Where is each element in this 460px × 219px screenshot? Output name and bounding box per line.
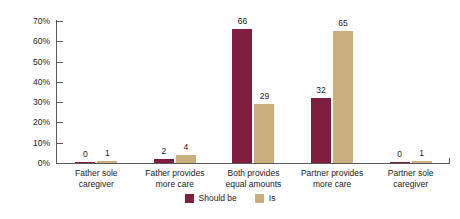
legend-item[interactable]: Should be bbox=[185, 194, 237, 203]
bar-value-label: 29 bbox=[260, 92, 269, 101]
bar-slot: 1 bbox=[412, 21, 432, 163]
chart-category: 3265Partner providesmore care bbox=[293, 21, 372, 163]
bar-value-label: 1 bbox=[419, 149, 424, 158]
bar-value-label: 65 bbox=[338, 19, 347, 28]
category-axis-label: Father solecaregiver bbox=[55, 168, 137, 189]
category-axis-label-line: caregiver bbox=[55, 179, 137, 190]
bar-should-be[interactable] bbox=[75, 162, 95, 164]
category-axis-label-line: Partner provides bbox=[291, 168, 373, 179]
legend-item[interactable]: Is bbox=[255, 194, 276, 203]
bar-value-label: 0 bbox=[397, 150, 402, 159]
bar-is[interactable] bbox=[412, 161, 432, 163]
legend-label: Is bbox=[269, 194, 276, 203]
bar-chart: 0%10%20%30%40%50%60%70% 01Father solecar… bbox=[0, 0, 460, 219]
category-bar-group: 24 bbox=[136, 21, 215, 163]
bar-slot: 29 bbox=[254, 21, 274, 163]
bar-should-be[interactable] bbox=[311, 98, 331, 163]
bar-is[interactable] bbox=[176, 155, 196, 163]
category-axis-label-line: more care bbox=[291, 179, 373, 190]
bar-is[interactable] bbox=[254, 104, 274, 163]
category-axis-label-line: more care bbox=[134, 179, 216, 190]
bar-is[interactable] bbox=[97, 161, 117, 163]
legend-swatch-icon bbox=[255, 194, 264, 203]
category-axis-label: Father providesmore care bbox=[134, 168, 216, 189]
bar-value-label: 0 bbox=[83, 150, 88, 159]
bar-value-label: 66 bbox=[238, 17, 247, 26]
bar-is[interactable] bbox=[333, 31, 353, 163]
bar-should-be[interactable] bbox=[390, 162, 410, 164]
bar-slot: 65 bbox=[333, 21, 353, 163]
bar-slot: 32 bbox=[311, 21, 331, 163]
x-axis-line bbox=[56, 163, 450, 164]
chart-legend: Should beIs bbox=[0, 194, 460, 203]
chart-category: 01Partner solecaregiver bbox=[371, 21, 450, 163]
y-axis-tick-label: 0% bbox=[8, 159, 50, 168]
bar-value-label: 1 bbox=[105, 149, 110, 158]
category-axis-label-line: Both provides bbox=[212, 168, 294, 179]
bar-value-label: 4 bbox=[184, 143, 189, 152]
y-axis-tick-label: 50% bbox=[8, 58, 50, 67]
category-axis-label-line: Father provides bbox=[134, 168, 216, 179]
plot-area: 01Father solecaregiver24Father providesm… bbox=[57, 21, 450, 163]
y-axis-tick-label: 10% bbox=[8, 139, 50, 148]
category-bar-group: 01 bbox=[371, 21, 450, 163]
y-axis-tick-label: 60% bbox=[8, 37, 50, 46]
chart-category: 01Father solecaregiver bbox=[57, 21, 136, 163]
bar-slot: 0 bbox=[390, 21, 410, 163]
category-axis-label-line: caregiver bbox=[370, 179, 452, 190]
category-bar-group: 01 bbox=[57, 21, 136, 163]
bar-slot: 1 bbox=[97, 21, 117, 163]
category-axis-label-line: Father sole bbox=[55, 168, 137, 179]
bar-should-be[interactable] bbox=[232, 29, 252, 163]
category-axis-label: Partner solecaregiver bbox=[370, 168, 452, 189]
y-axis-tick-label: 40% bbox=[8, 78, 50, 87]
y-axis-tick-label: 30% bbox=[8, 98, 50, 107]
bar-value-label: 2 bbox=[162, 147, 167, 156]
category-axis-label-line: equal amounts bbox=[212, 179, 294, 190]
y-axis-tick-label: 70% bbox=[8, 17, 50, 26]
bar-slot: 2 bbox=[154, 21, 174, 163]
category-bar-group: 3265 bbox=[293, 21, 372, 163]
category-axis-label-line: Partner sole bbox=[370, 168, 452, 179]
bar-value-label: 32 bbox=[316, 86, 325, 95]
bar-slot: 0 bbox=[75, 21, 95, 163]
chart-category: 6629Both providesequal amounts bbox=[214, 21, 293, 163]
bar-slot: 4 bbox=[176, 21, 196, 163]
category-axis-label: Partner providesmore care bbox=[291, 168, 373, 189]
y-axis-tick-label: 20% bbox=[8, 118, 50, 127]
chart-category: 24Father providesmore care bbox=[136, 21, 215, 163]
category-bar-group: 6629 bbox=[214, 21, 293, 163]
bar-should-be[interactable] bbox=[154, 159, 174, 163]
legend-label: Should be bbox=[199, 194, 237, 203]
category-axis-label: Both providesequal amounts bbox=[212, 168, 294, 189]
bar-slot: 66 bbox=[232, 21, 252, 163]
legend-swatch-icon bbox=[185, 194, 194, 203]
